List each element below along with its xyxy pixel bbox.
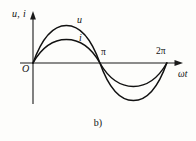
x-axis-label: ωt [178,70,187,80]
y-axis-label: u, i [12,9,26,19]
x-tick-label-pi: π [101,48,106,58]
current-curve-label: i [79,33,82,43]
y-axis-arrow-icon [30,11,36,20]
figure-caption: b) [0,117,196,128]
x-axis-arrow-icon [175,60,184,66]
origin-label: O [22,64,29,74]
voltage-curve-label: u [77,15,82,25]
waveform-figure: u, i ωt O π 2π u i b) [0,0,196,141]
x-tick-label-two-pi: 2π [156,47,166,57]
